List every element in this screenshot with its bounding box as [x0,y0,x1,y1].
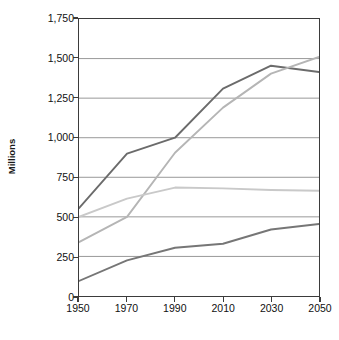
x-tick-label: 1970 [101,303,151,314]
gridlines [79,59,319,257]
x-tick-label: 2030 [247,303,297,314]
y-tick-label: 250 [30,252,74,263]
y-tick-label: 500 [30,212,74,223]
x-tick-mark [77,297,78,302]
x-tick-mark [223,297,224,302]
x-tick-mark [319,297,320,302]
x-tick-label: 2010 [198,303,248,314]
y-tick-label: 1,250 [30,93,74,104]
x-tick-label: 2050 [295,303,339,314]
line-chart: Millions 02505007501,0001,2501,5001,750 … [0,0,339,340]
y-axis-title: Millions [6,127,17,187]
series-line-series-4 [79,224,319,281]
plot-svg [79,19,319,296]
series-lines [79,57,319,281]
x-tick-mark [174,297,175,302]
series-line-series-2 [79,57,319,242]
y-tick-label: 1,750 [30,13,74,24]
y-axis-tick-labels: 02505007501,0001,2501,5001,750 [26,0,74,340]
series-line-series-3 [79,188,319,217]
y-tick-label: 1,000 [30,132,74,143]
y-tick-label: 750 [30,172,74,183]
x-tick-mark [271,297,272,302]
x-tick-label: 1950 [53,303,103,314]
y-tick-label: 0 [30,292,74,303]
series-line-series-1 [79,66,319,208]
x-tick-mark [126,297,127,302]
y-tick-label: 1,500 [30,53,74,64]
plot-area [78,18,320,297]
x-tick-label: 1990 [150,303,200,314]
chart-title [60,0,290,3]
